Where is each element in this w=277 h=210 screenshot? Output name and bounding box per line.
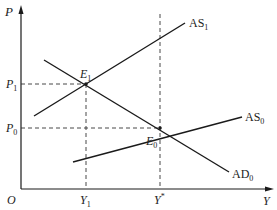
e0-point — [158, 126, 162, 130]
origin-label: O — [7, 193, 16, 207]
p0-label: P0 — [5, 121, 17, 137]
as1-curve — [34, 23, 185, 116]
x-axis-arrow-icon — [265, 187, 274, 192]
as0-label: AS0 — [245, 110, 264, 126]
y-axis-label: P — [4, 4, 13, 19]
axes — [19, 5, 275, 192]
x-axis-label: Y — [263, 194, 271, 208]
y-axis-arrow-icon — [19, 5, 24, 14]
as-ad-diagram: P Y O P1 P0 Y1 Y* E1 E0 AS1 AS0 AD0 — [0, 0, 277, 210]
p1-label: P1 — [5, 77, 17, 93]
y1-label: Y1 — [80, 193, 91, 209]
e0-label: E0 — [145, 134, 157, 150]
ad0-label: AD0 — [232, 167, 253, 183]
ad0-curve — [44, 60, 229, 172]
as1-label: AS1 — [189, 16, 208, 32]
as0-curve — [73, 117, 242, 162]
curves — [34, 23, 242, 172]
ystar-label: Y* — [154, 192, 165, 207]
e1-label: E1 — [79, 67, 91, 83]
guide-lines — [21, 14, 160, 189]
